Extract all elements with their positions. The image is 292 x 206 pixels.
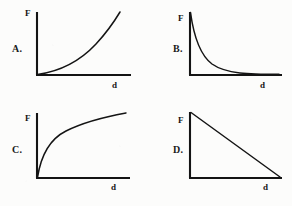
panel-letter-c: C. (12, 145, 23, 155)
line-linear-decrease-d (191, 113, 280, 178)
x-axis-label-a: d (112, 81, 117, 90)
curve-logarithmic-growth-c (38, 113, 127, 178)
panel-letter-a: A. (12, 44, 23, 54)
curve-exponential-decay-b (191, 13, 280, 75)
y-axis-label-d: F (178, 116, 184, 125)
x-axis-label-d: d (263, 183, 268, 192)
curve-exponential-growth-a (38, 12, 121, 75)
graph-panel-d-plot (146, 103, 292, 206)
panel-letter-d: D. (173, 145, 184, 155)
graph-panel-b-plot (146, 0, 292, 103)
y-axis-label-b: F (178, 14, 184, 23)
y-axis-label-a: F (25, 9, 31, 18)
graph-panel-d: D. F d (146, 103, 292, 206)
x-axis-label-c: d (111, 183, 116, 192)
x-axis-label-b: d (260, 81, 265, 90)
y-axis-label-c: F (25, 114, 31, 123)
graph-panel-b: B. F d (146, 0, 292, 103)
graph-panel-a: A. F d (0, 0, 146, 103)
panel-letter-b: B. (173, 44, 183, 54)
graph-panel-c: C. F d (0, 103, 146, 206)
multiple-choice-graph-figure: A. F d B. F d C. F d (0, 0, 292, 206)
